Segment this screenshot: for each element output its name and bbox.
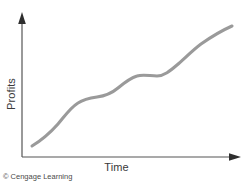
chart-canvas: [0, 0, 247, 185]
copyright-credit: © Cengage Learning: [3, 172, 72, 181]
profits-curve: [32, 26, 232, 146]
y-axis-arrow-icon: [18, 12, 26, 24]
x-axis-arrow-icon: [229, 153, 241, 161]
y-axis-label: Profits: [5, 64, 17, 124]
profits-over-time-chart: Profits Time © Cengage Learning: [0, 0, 247, 185]
